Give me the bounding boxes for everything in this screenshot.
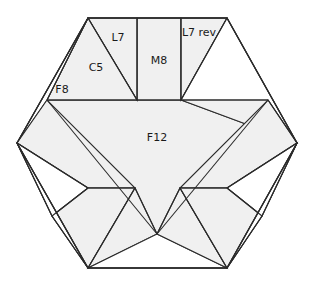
piece-label-m8: M8 xyxy=(151,54,168,67)
piece-label-l7rev: L7 rev xyxy=(182,26,217,39)
piece-label-f8: F8 xyxy=(55,83,68,96)
piece-label-c5: C5 xyxy=(89,61,104,74)
hexagon-diagram: L7M8L7 revC5F8F12 xyxy=(0,0,314,287)
hexagon-svg: L7M8L7 revC5F8F12 xyxy=(0,0,314,287)
piece-label-l7: L7 xyxy=(111,31,124,44)
piece-label-f12: F12 xyxy=(147,131,167,144)
